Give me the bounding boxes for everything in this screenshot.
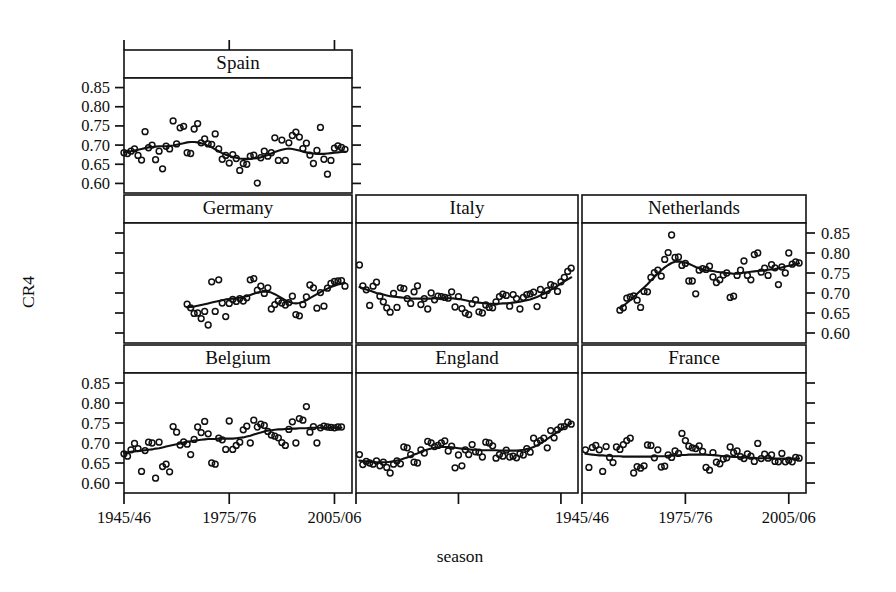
y-tick-label: 0.80 <box>821 244 850 263</box>
y-tick-label: 0.85 <box>81 78 110 97</box>
y-tick-label: 0.75 <box>81 414 110 433</box>
panel-france: France <box>582 345 806 493</box>
y-tick-label: 0.60 <box>81 474 110 493</box>
y-tick-label: 0.70 <box>821 284 850 303</box>
y-tick-label: 0.60 <box>81 174 110 193</box>
x-tick-label: 2005/06 <box>762 508 816 527</box>
y-tick-label: 0.80 <box>81 97 110 116</box>
y-tick-label: 0.75 <box>81 116 110 135</box>
panel-strip-label: Germany <box>203 197 274 218</box>
panel-spain: Spain <box>121 50 352 193</box>
panel-strip-label: Netherlands <box>648 197 740 218</box>
y-tick-label: 0.70 <box>81 434 110 453</box>
panel-germany: Germany <box>124 195 352 343</box>
y-tick-label: 0.70 <box>81 136 110 155</box>
y-tick-label: 0.85 <box>821 224 850 243</box>
panel-strip-label: England <box>435 347 499 368</box>
panel-belgium: Belgium <box>121 345 352 493</box>
panel-strip-label: Spain <box>216 52 260 73</box>
panel-italy: Italy <box>356 195 578 343</box>
y-tick-label: 0.65 <box>81 155 110 174</box>
x-tick-label: 1975/76 <box>202 508 256 527</box>
y-tick-label: 0.85 <box>81 374 110 393</box>
y-tick-label: 0.80 <box>81 394 110 413</box>
panel-strip-label: France <box>668 347 720 368</box>
panel-england: England <box>356 345 578 493</box>
y-tick-label: 0.75 <box>821 264 850 283</box>
y-tick-label: 0.60 <box>821 324 850 343</box>
cr4-by-season-trellis-plot: SpainGermanyItalyNetherlandsBelgiumEngla… <box>0 0 896 592</box>
x-tick-label: 2005/06 <box>307 508 361 527</box>
y-axis-title: CR4 <box>18 276 38 308</box>
panel-netherlands: Netherlands <box>582 195 806 343</box>
y-tick-label: 0.65 <box>81 454 110 473</box>
x-tick-label: 1945/46 <box>555 508 609 527</box>
x-tick-label: 1975/76 <box>658 508 712 527</box>
panel-strip-label: Belgium <box>205 347 271 368</box>
panel-strip-label: Italy <box>450 197 485 218</box>
x-axis-title: season <box>437 546 484 566</box>
x-tick-label: 1945/46 <box>97 508 151 527</box>
trellis-chart-figure: SpainGermanyItalyNetherlandsBelgiumEngla… <box>0 0 896 592</box>
y-tick-label: 0.65 <box>821 304 850 323</box>
